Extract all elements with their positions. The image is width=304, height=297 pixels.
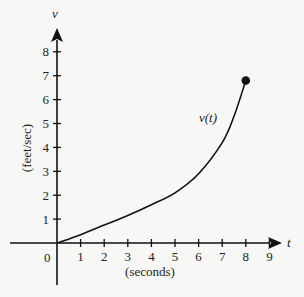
y-tick-label: 3	[43, 164, 50, 179]
v-axis-arrow-icon	[51, 28, 63, 42]
y-tick-label: 1	[43, 212, 50, 227]
x-tick-label: 9	[266, 249, 273, 264]
y-ticks: 12345678	[43, 44, 62, 226]
y-tick-label: 7	[43, 68, 50, 83]
y-tick-label: 8	[43, 44, 50, 59]
y-tick-label: 4	[43, 140, 50, 155]
x-tick-label: 2	[101, 249, 108, 264]
y-tick-label: 5	[43, 116, 50, 131]
t-axis-name: t	[287, 235, 291, 250]
x-tick-label: 5	[172, 249, 179, 264]
t-axis-arrow-icon	[268, 237, 282, 249]
axes	[10, 28, 282, 285]
x-tick-label: 4	[148, 249, 155, 264]
v-axis-name: v	[52, 6, 58, 21]
x-axis-label: (seconds)	[125, 264, 175, 279]
x-tick-label: 3	[125, 249, 132, 264]
origin-label: 0	[44, 250, 51, 265]
chart-canvas: 123456789 12345678 v t 0 (seconds) (feet…	[0, 0, 304, 297]
velocity-curve	[57, 80, 246, 243]
x-tick-label: 8	[243, 249, 250, 264]
y-tick-label: 2	[43, 188, 50, 203]
x-tick-label: 7	[219, 249, 226, 264]
endpoint-marker	[242, 76, 251, 85]
x-tick-label: 6	[195, 249, 202, 264]
x-tick-label: 1	[77, 249, 84, 264]
y-axis-label: (feet/sec)	[19, 124, 34, 172]
curve-label: v(t)	[199, 110, 217, 125]
y-tick-label: 6	[43, 92, 50, 107]
